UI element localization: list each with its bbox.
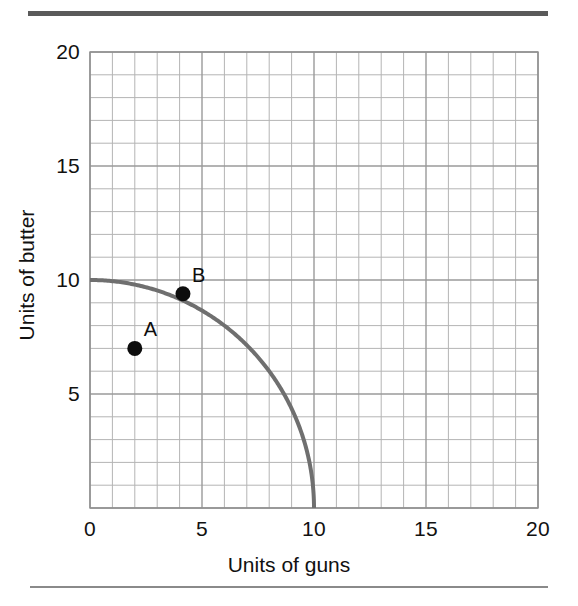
ppf-chart-figure: 20 15 10 5 0 5 10 15 20 Units of guns Un… (0, 0, 578, 606)
point-label-a: A (144, 318, 157, 341)
x-tick-label-20: 20 (526, 517, 550, 541)
data-point-a (127, 341, 142, 356)
x-tick-label-5: 5 (196, 517, 208, 541)
data-point-b (175, 286, 190, 301)
y-tick-label-15: 15 (56, 154, 80, 178)
x-tick-label-0: 0 (84, 517, 96, 541)
point-label-b: B (192, 264, 205, 287)
y-tick-label-20: 20 (56, 40, 80, 64)
x-axis-title: Units of guns (0, 553, 578, 577)
x-tick-label-15: 15 (414, 517, 438, 541)
x-tick-label-10: 10 (302, 517, 326, 541)
y-tick-label-5: 5 (68, 382, 80, 406)
plot-area (0, 0, 578, 606)
y-tick-label-10: 10 (56, 268, 80, 292)
bottom-rule (30, 586, 548, 588)
y-axis-title: Units of butter (14, 40, 40, 510)
data-point-markers (127, 286, 190, 356)
